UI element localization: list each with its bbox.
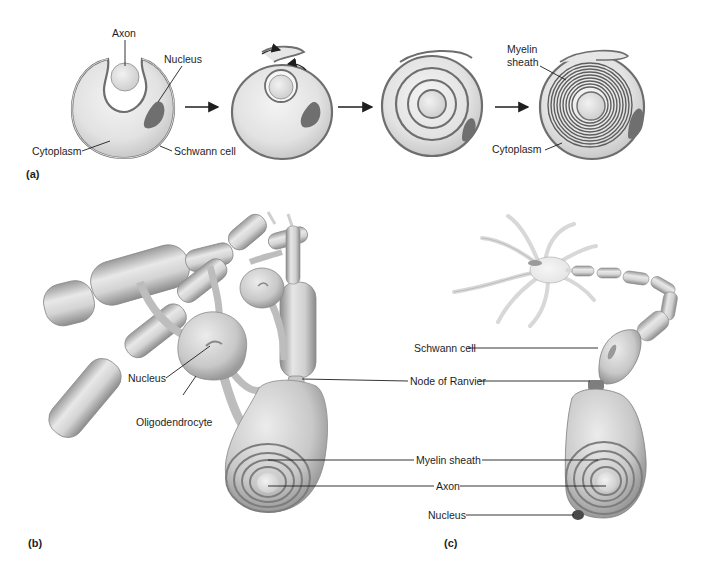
panel-label-b: (b) (28, 537, 42, 549)
axon-circle (111, 63, 139, 91)
stage-1-schwann-cell (72, 59, 174, 158)
label-schwann-cell-a: Schwann cell (174, 145, 236, 157)
myelination-figure: Axon Nucleus Cytoplasm Schwann cell Myel… (0, 0, 704, 566)
panel-b-oligodendrocyte-illustration (40, 210, 328, 512)
panel-label-a: (a) (26, 168, 39, 180)
figure-artwork (0, 0, 704, 566)
label-myelin-a-line1: Myelin (507, 43, 537, 55)
stage-2-schwann-cell (232, 47, 332, 159)
label-node-of-ranvier: Node of Ranvier (410, 375, 486, 387)
stage-4-myelinated-axon (540, 51, 644, 159)
label-myelin-a-line2: sheath (507, 56, 539, 68)
panel-label-c: (c) (444, 537, 457, 549)
label-myelin-sheath: Myelin sheath (416, 454, 481, 466)
label-cytoplasm-a-right: Cytoplasm (492, 143, 542, 155)
label-nucleus-b: Nucleus (128, 372, 166, 384)
panel-c-schwann-neuron-illustration (454, 216, 678, 520)
label-oligodendrocyte: Oligodendrocyte (136, 416, 212, 428)
label-nucleus-a: Nucleus (164, 53, 202, 65)
label-cytoplasm-a: Cytoplasm (32, 145, 82, 157)
label-axon: Axon (436, 480, 460, 492)
stage-3-schwann-cell (382, 51, 482, 156)
label-schwann-cell-c: Schwann cell (414, 342, 476, 354)
label-axon-a: Axon (112, 27, 136, 39)
label-nucleus-c: Nucleus (428, 509, 466, 521)
